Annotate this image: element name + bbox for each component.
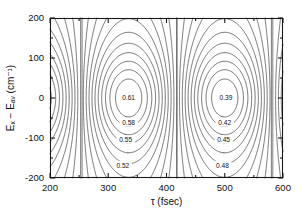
contour-label: 0.61 [122, 94, 135, 101]
contour-label: 0.42 [218, 119, 231, 126]
contour-label: 0.45 [217, 136, 230, 143]
contour-label: 0.48 [216, 162, 229, 169]
y-tick-label: -200 [25, 172, 44, 183]
x-tick-label: 500 [217, 182, 233, 193]
contour-label: 0.55 [119, 136, 132, 143]
plot-canvas: 2003004005006002001000-100-2000.610.580.… [0, 0, 302, 213]
y-tick-label: 200 [28, 12, 44, 23]
x-tick-label: 200 [42, 182, 58, 193]
contour-label: 0.39 [219, 94, 232, 101]
separatrix-lines [82, 18, 271, 178]
contour-plot-figure: 2003004005006002001000-100-2000.610.580.… [0, 0, 302, 213]
contour-labels: 0.610.580.550.520.390.420.450.48 [114, 94, 235, 169]
x-tick-label: 600 [275, 182, 291, 193]
contour-lines [50, 18, 283, 178]
y-tick-label: 100 [28, 52, 44, 63]
contour-label: 0.58 [122, 119, 135, 126]
y-tick-label: 0 [39, 92, 44, 103]
y-tick-label: -100 [25, 132, 44, 143]
contour-label: 0.52 [116, 162, 129, 169]
x-tick-label: 300 [100, 182, 116, 193]
x-tick-label: 400 [159, 182, 175, 193]
x-axis-label: τ (fsec) [151, 196, 183, 207]
y-axis-label: Eₓ − Eₐᵥ (cm⁻¹) [5, 65, 16, 131]
axis-frame: 2003004005006002001000-100-200 [25, 12, 291, 193]
